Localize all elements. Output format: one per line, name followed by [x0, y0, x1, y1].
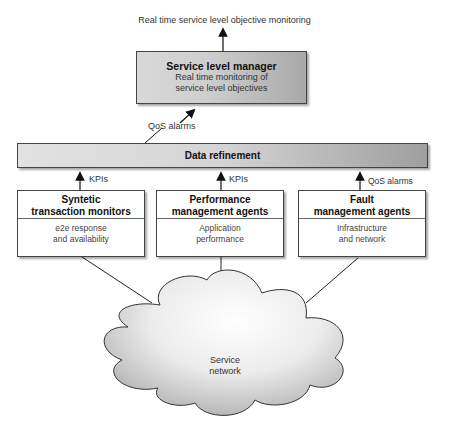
agent-header: Syntetic transaction monitors — [18, 191, 144, 219]
agent-title-line2: management agents — [299, 206, 425, 218]
service-level-manager-box: Service level manager Real time monitori… — [136, 51, 307, 104]
performance-management-agents-box: Performance management agents Applicatio… — [156, 190, 284, 257]
qos-alarms-label-fault: QoS alarms — [368, 176, 413, 186]
agent-desc-line2: and availability — [18, 234, 144, 245]
agent-title-line2: management agents — [157, 206, 283, 218]
kpis-label-2: KPIs — [229, 174, 248, 184]
data-refinement-bar: Data refinement — [17, 143, 428, 168]
agent-desc-line1: Infrastructure — [299, 223, 425, 234]
agent-desc-line2: and network — [299, 234, 425, 245]
agent-desc-line1: Application — [157, 223, 283, 234]
agent-description: Infrastructure and network — [299, 219, 425, 245]
service-network-cloud — [104, 270, 343, 415]
agent-header: Performance management agents — [157, 191, 283, 219]
agent-title-line2: transaction monitors — [18, 206, 144, 218]
agent-title-line1: Performance — [157, 194, 283, 206]
cloud-label-line2: network — [185, 366, 265, 377]
qos-alarms-label-top: QoS alarms — [148, 121, 196, 131]
service-level-manager-line1: Real time monitoring of — [137, 72, 306, 83]
service-network-label: Service network — [185, 355, 265, 377]
agent-description: e2e response and availability — [18, 219, 144, 245]
service-level-manager-title: Service level manager — [137, 60, 306, 72]
agent-description: Application performance — [157, 219, 283, 245]
agent-header: Fault management agents — [299, 191, 425, 219]
agent-desc-line1: e2e response — [18, 223, 144, 234]
synthetic-transaction-monitors-box: Syntetic transaction monitors e2e respon… — [17, 190, 145, 257]
cloud-label-line1: Service — [185, 355, 265, 366]
top-output-label: Real time service level objective monito… — [0, 15, 449, 25]
agent-desc-line2: performance — [157, 234, 283, 245]
agent-title-line1: Syntetic — [18, 194, 144, 206]
agent-title-line1: Fault — [299, 194, 425, 206]
service-level-manager-line2: service level objectives — [137, 83, 306, 94]
kpis-label-1: KPIs — [89, 174, 108, 184]
fault-management-agents-box: Fault management agents Infrastructure a… — [298, 190, 426, 257]
